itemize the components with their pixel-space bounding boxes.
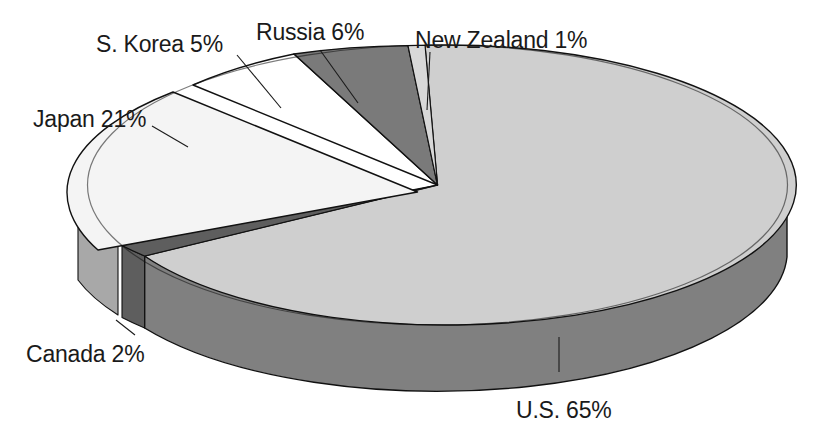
label-japan: Japan 21% xyxy=(33,106,146,132)
slice-side-canada xyxy=(122,246,145,329)
pie-chart-svg: S. Korea 5% Russia 6% New Zealand 1% Jap… xyxy=(0,0,814,432)
label-russia: Russia 6% xyxy=(256,19,364,45)
pie-chart: S. Korea 5% Russia 6% New Zealand 1% Jap… xyxy=(0,0,814,432)
label-canada: Canada 2% xyxy=(26,341,144,367)
label-s-korea: S. Korea 5% xyxy=(96,31,223,57)
label-us: U.S. 65% xyxy=(516,397,612,423)
label-new-zealand: New Zealand 1% xyxy=(415,27,587,53)
